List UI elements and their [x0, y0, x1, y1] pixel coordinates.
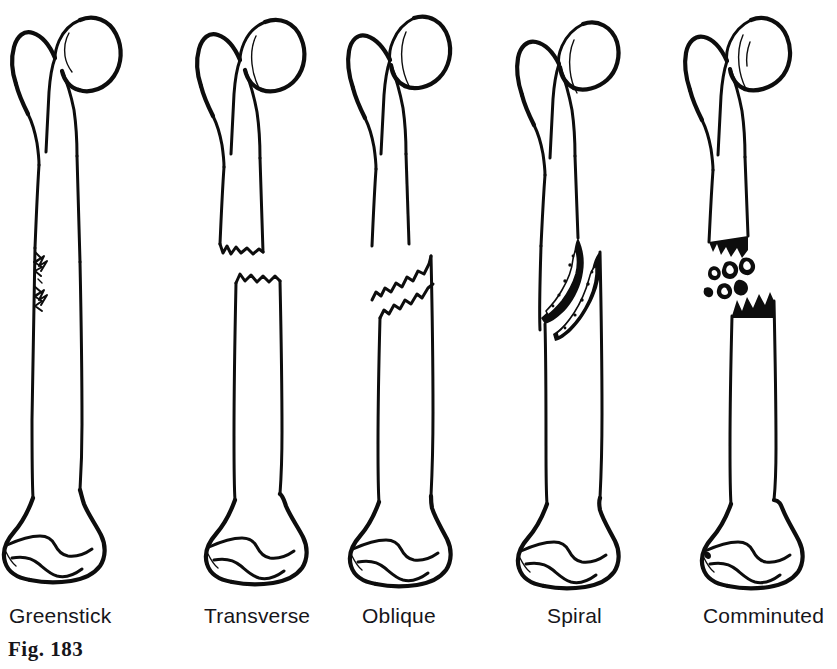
comminuted-fracture-distal-edge	[732, 292, 774, 318]
femur-shaft-distal-fragment	[730, 301, 776, 504]
bone-illustration-greenstick	[0, 0, 162, 600]
bone-illustration-oblique	[318, 0, 488, 600]
femur-distal-condyles	[702, 500, 803, 588]
femur-distal-condyles	[206, 494, 307, 584]
femur-proximal-end	[348, 17, 450, 169]
oblique-fracture-proximal-edge	[372, 256, 431, 300]
femur-proximal-end	[12, 18, 120, 165]
transverse-fracture-proximal-edge	[220, 244, 263, 254]
femur-shaft-proximal-fragment	[709, 157, 748, 242]
label-spiral: Spiral	[547, 604, 602, 628]
label-transverse: Transverse	[204, 604, 310, 628]
label-greenstick: Greenstick	[9, 604, 111, 628]
label-oblique: Oblique	[362, 604, 436, 628]
transverse-fracture-distal-edge	[236, 274, 280, 283]
femur-shaft-proximal-fragment	[372, 154, 409, 246]
femur-shaft-proximal-fragment	[541, 156, 578, 246]
femur-shaft-distal-fragment	[234, 281, 282, 500]
fracture-types-figure: Greenstick Transverse Oblique Spiral Com…	[0, 0, 837, 669]
femur-shaft-proximal-fragment	[220, 158, 263, 252]
femur-distal-condyles	[350, 496, 451, 586]
comminuted-fracture-proximal-edge	[709, 236, 748, 258]
bone-illustration-comminuted	[658, 0, 828, 600]
fracture-label-row: Greenstick Transverse Oblique Spiral Com…	[0, 604, 837, 638]
femur-proximal-end	[517, 23, 618, 175]
figure-caption: Fig. 183	[8, 637, 83, 662]
femur-distal-condyles	[4, 490, 105, 582]
femur-distal-condyles	[518, 498, 619, 588]
femur-proximal-end	[197, 20, 304, 167]
comminuted-bone-fragments	[704, 257, 755, 299]
femur-proximal-end	[685, 18, 790, 170]
bone-illustration-spiral	[488, 0, 658, 600]
femur-shaft-proximal-fragment	[35, 156, 80, 262]
femur-shaft-distal	[32, 248, 82, 498]
label-comminuted: Comminuted	[703, 604, 824, 628]
